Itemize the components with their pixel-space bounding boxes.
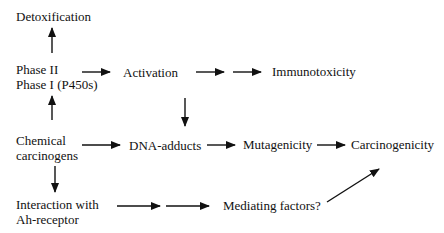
node-chemical-carcinogens: Chemical carcinogens [16, 133, 78, 163]
node-phase: Phase II Phase I (P450s) [16, 62, 98, 92]
node-phase-i: Phase I (P450s) [16, 77, 98, 92]
node-mediating-factors: Mediating factors? [223, 198, 321, 213]
node-chemical-line2: carcinogens [16, 148, 78, 163]
node-ah-line2: Ah-receptor [16, 212, 99, 227]
node-chemical-line1: Chemical [16, 133, 78, 148]
node-dna-adducts: DNA-adducts [129, 138, 201, 153]
node-carcinogenicity: Carcinogenicity [351, 137, 434, 152]
node-phase-ii: Phase II [16, 62, 98, 77]
node-activation: Activation [123, 65, 178, 80]
arrow-mediating-to-carcinogenicity [327, 169, 379, 202]
node-detoxification: Detoxification [16, 9, 91, 24]
node-immunotoxicity: Immunotoxicity [272, 64, 356, 79]
node-mutagenicity: Mutagenicity [243, 137, 312, 152]
node-ah-receptor: Interaction with Ah-receptor [16, 197, 99, 227]
node-ah-line1: Interaction with [16, 197, 99, 212]
